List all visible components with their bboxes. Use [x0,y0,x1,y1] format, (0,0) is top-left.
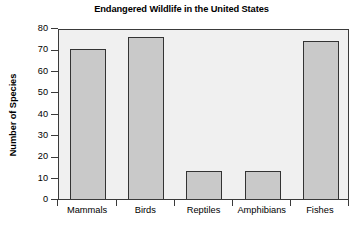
chart-title: Endangered Wildlife in the United States [0,4,363,14]
plot-area [58,29,349,200]
bars-layer [59,30,348,199]
y-axis-tick [51,71,58,72]
x-axis-tick-label: Mammals [58,205,116,216]
bar-mammals[interactable] [70,49,106,199]
y-axis-tick-label: 40 [8,110,48,119]
bar-slot [175,30,233,199]
y-axis-tick-label: 70 [8,45,48,54]
y-axis-tick [51,178,58,179]
bar-fishes[interactable] [303,41,339,199]
bar-birds[interactable] [128,37,164,199]
y-axis-tick [51,92,58,93]
x-axis-tick-label: Birds [116,205,174,216]
y-axis-tick [51,157,58,158]
y-axis-tick [51,50,58,51]
bar-slot [234,30,292,199]
y-axis-tick [51,114,58,115]
bar-chart-figure: Endangered Wildlife in the United States… [0,0,363,234]
y-axis-tick-label: 0 [8,195,48,204]
y-axis-tick [51,28,58,29]
bar-slot [292,30,350,199]
bar-slot [117,30,175,199]
y-axis-tick-label: 50 [8,88,48,97]
bar-amphibians[interactable] [245,171,281,199]
bar-slot [59,30,117,199]
x-axis-tick-label: Amphibians [233,205,291,216]
x-axis-tick-label: Fishes [291,205,349,216]
x-axis-tick-label: Reptiles [174,205,232,216]
y-axis-tick-label: 60 [8,67,48,76]
y-axis-tick-label: 10 [8,174,48,183]
y-axis-tick-label: 80 [8,24,48,33]
y-axis-tick-label: 30 [8,131,48,140]
y-axis-tick [51,135,58,136]
y-axis-tick-label: 20 [8,152,48,161]
bar-reptiles[interactable] [186,171,222,199]
